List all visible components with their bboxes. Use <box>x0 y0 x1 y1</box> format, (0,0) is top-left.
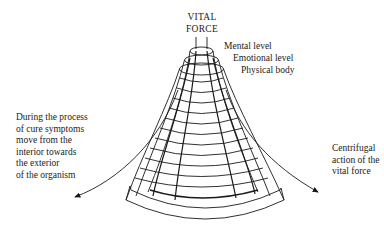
physical-body-label: Physical body <box>241 65 295 77</box>
annotation-line: vital force <box>332 166 379 178</box>
annotation-line: of cure symptoms <box>16 124 88 136</box>
vital-force-line-1: VITAL <box>180 12 224 24</box>
annotation-line: interior towards <box>16 147 88 159</box>
mental-level-label: Mental level <box>224 41 272 53</box>
centrifugal-annotation: Centrifugal action of the vital force <box>332 143 379 178</box>
annotation-line: During the process <box>16 112 88 124</box>
mental-level-top <box>190 47 213 55</box>
annotation-line: move from the <box>16 135 88 147</box>
cure-process-annotation: During the process of cure symptoms move… <box>16 112 88 181</box>
vital-force-line-2: FORCE <box>180 24 224 36</box>
centripetal-arrow <box>75 90 178 197</box>
centrifugal-arrow <box>226 90 318 192</box>
annotation-line: of the organism <box>16 170 88 182</box>
annotation-line: the exterior <box>16 158 88 170</box>
annotation-line: action of the <box>332 155 379 167</box>
annotation-line: Centrifugal <box>332 143 379 155</box>
emotional-level-label: Emotional level <box>233 53 293 65</box>
vital-force-label: VITAL FORCE <box>180 12 224 35</box>
